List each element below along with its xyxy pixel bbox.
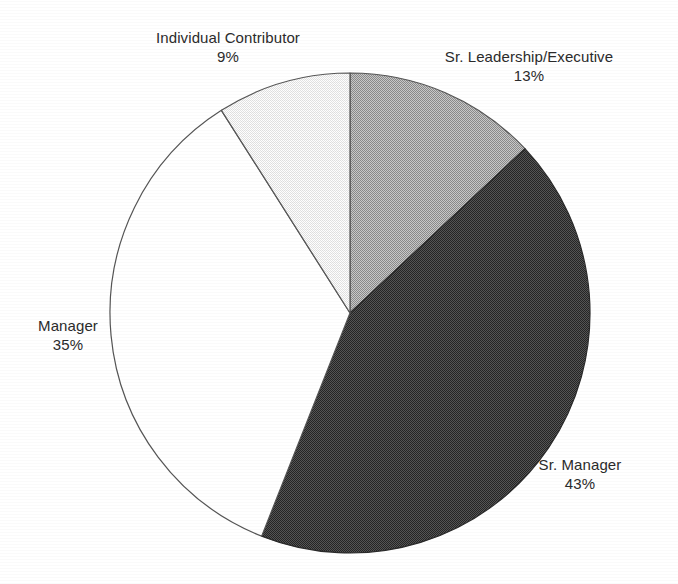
- slice-label-manager: Manager 35%: [8, 316, 128, 354]
- slice-label-name: Manager: [8, 316, 128, 335]
- slice-label-name: Sr. Manager: [500, 455, 660, 474]
- slice-label-individual-contributor: Individual Contributor 9%: [103, 28, 353, 66]
- slice-label-name: Sr. Leadership/Executive: [404, 47, 654, 66]
- slice-label-sr-manager: Sr. Manager 43%: [500, 455, 660, 493]
- pie-chart: Individual Contributor 9% Sr. Leadership…: [0, 0, 678, 584]
- slice-label-value: 13%: [404, 66, 654, 85]
- slice-label-value: 9%: [103, 47, 353, 66]
- slice-label-value: 35%: [8, 335, 128, 354]
- slice-label-value: 43%: [500, 474, 660, 493]
- slice-label-name: Individual Contributor: [103, 28, 353, 47]
- pie-chart-canvas: [0, 0, 678, 584]
- slice-label-sr-leadership-executive: Sr. Leadership/Executive 13%: [404, 47, 654, 85]
